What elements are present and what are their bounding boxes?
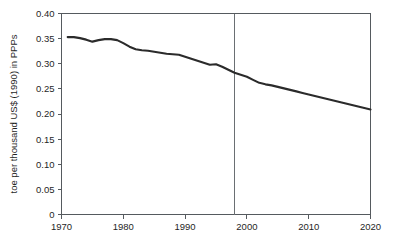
y-axis-tick-label: 0.30 bbox=[36, 58, 55, 69]
y-axis-tick-label: 0.40 bbox=[36, 8, 55, 19]
data-series-line bbox=[68, 37, 371, 109]
x-axis-tick-label: 2010 bbox=[298, 221, 319, 232]
x-axis-tick-label: 2000 bbox=[236, 221, 257, 232]
y-axis-title: toe per thousand US$ (1990) in PPPs bbox=[8, 34, 19, 193]
chart-figure: toe per thousand US$ (1990) in PPPs 00.0… bbox=[0, 0, 396, 245]
x-axis-tick-label: 1990 bbox=[175, 221, 196, 232]
x-axis-tick-label: 1970 bbox=[51, 221, 72, 232]
y-axis-tick-label: 0.05 bbox=[36, 184, 55, 195]
y-axis-label-group: toe per thousand US$ (1990) in PPPs bbox=[8, 34, 19, 193]
plot-frame bbox=[62, 14, 371, 215]
y-axis-tick-label: 0 bbox=[49, 209, 54, 220]
y-axis-ticks-group: 00.050.100.150.200.250.300.350.40 bbox=[36, 8, 62, 220]
plot-frame-group bbox=[62, 14, 371, 215]
x-axis-tick-label: 1980 bbox=[113, 221, 134, 232]
y-axis-tick-label: 0.15 bbox=[36, 134, 55, 145]
series-group bbox=[68, 37, 371, 109]
y-axis-tick-label: 0.35 bbox=[36, 33, 55, 44]
y-axis-tick-label: 0.25 bbox=[36, 83, 55, 94]
energy-intensity-line-chart: toe per thousand US$ (1990) in PPPs 00.0… bbox=[0, 0, 396, 245]
y-axis-tick-label: 0.10 bbox=[36, 159, 55, 170]
y-axis-tick-label: 0.20 bbox=[36, 108, 55, 119]
x-axis-tick-label: 2020 bbox=[360, 221, 381, 232]
x-axis-ticks-group: 197019801990200020102020 bbox=[51, 215, 381, 232]
